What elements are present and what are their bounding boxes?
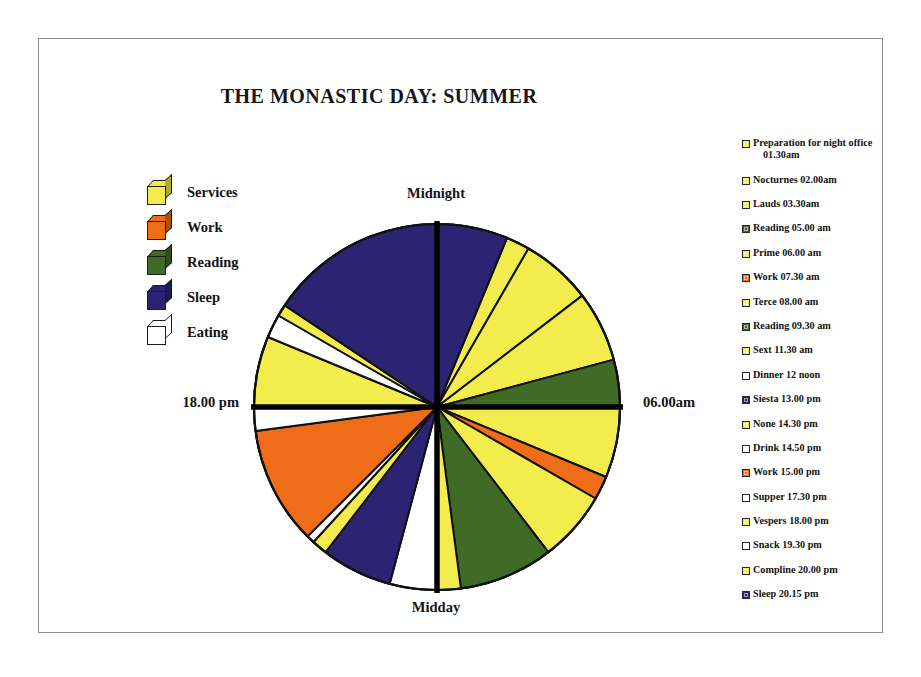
- schedule-item: Preparation for night office01.30am: [742, 137, 910, 161]
- schedule-item-label: Compline 20.00 pm: [753, 564, 838, 576]
- schedule-item-label: Prime 06.00 am: [753, 247, 821, 259]
- schedule-color-swatch: [742, 445, 750, 453]
- schedule-color-swatch: [742, 177, 750, 185]
- pie-axes: [251, 221, 623, 593]
- schedule-color-swatch: [742, 140, 750, 148]
- legend-item: Services: [147, 175, 317, 210]
- pie-svg: [251, 221, 623, 593]
- schedule-item: Snack 19.30 pm: [742, 539, 910, 551]
- schedule-color-swatch: [742, 250, 750, 258]
- cube-icon: [147, 215, 173, 241]
- schedule-color-swatch: [742, 201, 750, 209]
- schedule-item: Reading 09.30 am: [742, 320, 910, 332]
- schedule-item-label: Lauds 03.30am: [753, 198, 819, 210]
- schedule-item-label: Preparation for night office01.30am: [753, 137, 872, 161]
- axis-label-evening: 18.00 pm: [167, 394, 239, 411]
- cube-icon: [147, 320, 173, 346]
- schedule-item-label: Work 07.30 am: [753, 271, 820, 283]
- schedule-item: Nocturnes 02.00am: [742, 174, 910, 186]
- legend-item-label: Reading: [187, 254, 239, 271]
- schedule-item-label: None 14.30 pm: [753, 418, 818, 430]
- schedule-color-swatch: [742, 421, 750, 429]
- schedule-item: Drink 14.50 pm: [742, 442, 910, 454]
- schedule-item: Work 15.00 pm: [742, 466, 910, 478]
- schedule-item-label: Work 15.00 pm: [753, 466, 820, 478]
- legend-item-label: Sleep: [187, 289, 220, 306]
- schedule-color-swatch: [742, 591, 750, 599]
- schedule-color-swatch: [742, 274, 750, 282]
- schedule-color-swatch: [742, 347, 750, 355]
- schedule-item: Work 07.30 am: [742, 271, 910, 283]
- cube-icon: [147, 250, 173, 276]
- legend-item-label: Services: [187, 184, 238, 201]
- schedule-item-label: Dinner 12 noon: [753, 369, 820, 381]
- legend-item-label: Eating: [187, 324, 228, 341]
- schedule-color-swatch: [742, 323, 750, 331]
- schedule-color-swatch: [742, 469, 750, 477]
- schedule-item: Prime 06.00 am: [742, 247, 910, 259]
- schedule-item-label: Reading 09.30 am: [753, 320, 831, 332]
- schedule-item-label-cont: 01.30am: [753, 149, 872, 161]
- schedule-color-swatch: [742, 299, 750, 307]
- cube-icon: [147, 285, 173, 311]
- cube-icon: [147, 180, 173, 206]
- schedule-color-swatch: [742, 372, 750, 380]
- schedule-color-swatch: [742, 567, 750, 575]
- schedule-item: None 14.30 pm: [742, 418, 910, 430]
- schedule-item-label: Drink 14.50 pm: [753, 442, 821, 454]
- schedule-item: Lauds 03.30am: [742, 198, 910, 210]
- schedule-item: Dinner 12 noon: [742, 369, 910, 381]
- schedule-item: Supper 17.30 pm: [742, 491, 910, 503]
- schedule-item: Siesta 13.00 pm: [742, 393, 910, 405]
- schedule-item: Reading 05.00 am: [742, 222, 910, 234]
- axis-label-midnight: Midnight: [379, 185, 493, 202]
- schedule-color-swatch: [742, 494, 750, 502]
- chart-page: THE MONASTIC DAY: SUMMER ServicesWorkRea…: [0, 0, 921, 677]
- schedule-item-label: Terce 08.00 am: [753, 296, 818, 308]
- schedule-item: Sleep 20.15 pm: [742, 588, 910, 600]
- schedule-item-label: Nocturnes 02.00am: [753, 174, 837, 186]
- schedule-item: Compline 20.00 pm: [742, 564, 910, 576]
- schedule-item-label: Siesta 13.00 pm: [753, 393, 821, 405]
- schedule-color-swatch: [742, 518, 750, 526]
- schedule-item-label: Sext 11.30 am: [753, 344, 813, 356]
- schedule-item-label: Snack 19.30 pm: [753, 539, 822, 551]
- schedule-item: Sext 11.30 am: [742, 344, 910, 356]
- page-title: THE MONASTIC DAY: SUMMER: [39, 85, 719, 108]
- axis-label-morning: 06.00am: [643, 394, 695, 411]
- schedule-item-label: Reading 05.00 am: [753, 222, 831, 234]
- schedule-color-swatch: [742, 542, 750, 550]
- schedule-item-label: Sleep 20.15 pm: [753, 588, 818, 600]
- legend-item-label: Work: [187, 219, 222, 236]
- schedule-item-label: Supper 17.30 pm: [753, 491, 827, 503]
- schedule-item-label: Vespers 18.00 pm: [753, 515, 829, 527]
- schedule-color-swatch: [742, 396, 750, 404]
- schedule-color-swatch: [742, 225, 750, 233]
- pie-chart: [251, 221, 623, 593]
- chart-frame: THE MONASTIC DAY: SUMMER ServicesWorkRea…: [38, 38, 883, 633]
- axis-label-midday: Midday: [379, 599, 493, 616]
- schedule-item: Vespers 18.00 pm: [742, 515, 910, 527]
- schedule-list: Preparation for night office01.30amNoctu…: [742, 137, 910, 613]
- schedule-item: Terce 08.00 am: [742, 296, 910, 308]
